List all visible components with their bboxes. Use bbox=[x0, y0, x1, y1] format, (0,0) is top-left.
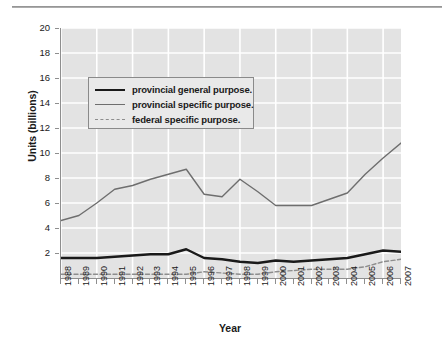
legend-line-swatch-icon bbox=[95, 85, 125, 95]
y-tick-mark bbox=[55, 53, 59, 54]
x-tick-mark bbox=[293, 279, 294, 284]
series-line bbox=[61, 143, 401, 221]
chart-canvas bbox=[61, 28, 401, 278]
x-tick-mark bbox=[364, 279, 365, 284]
x-tick-mark bbox=[185, 279, 186, 284]
legend-item-label: federal specific purpose. bbox=[132, 114, 240, 125]
y-tick-mark bbox=[55, 253, 59, 254]
legend-item-label: provincial general purpose. bbox=[132, 84, 252, 95]
line-chart-figure: Units (billions) Year 2468101214161820 1… bbox=[0, 0, 448, 346]
y-tick-mark bbox=[55, 203, 59, 204]
legend-dashed-swatch-icon bbox=[95, 115, 125, 125]
x-tick-mark bbox=[132, 279, 133, 284]
x-tick-mark bbox=[114, 279, 115, 284]
x-tick-mark bbox=[257, 279, 258, 284]
gridlines bbox=[61, 28, 401, 278]
x-tick-mark bbox=[78, 279, 79, 284]
x-tick-mark bbox=[346, 279, 347, 284]
y-tick-mark bbox=[55, 28, 59, 29]
chart-legend: provincial general purpose. provincial s… bbox=[88, 77, 254, 129]
legend-item-label: provincial specific purpose. bbox=[132, 99, 253, 110]
data-series-layer bbox=[61, 143, 401, 274]
y-tick-label: 2 bbox=[16, 248, 50, 258]
y-tick-mark bbox=[55, 128, 59, 129]
y-tick-label: 6 bbox=[16, 198, 50, 208]
x-axis-title: Year bbox=[60, 322, 400, 334]
x-tick-mark bbox=[239, 279, 240, 284]
y-tick-mark bbox=[55, 103, 59, 104]
x-tick-mark bbox=[149, 279, 150, 284]
y-tick-mark bbox=[55, 78, 59, 79]
x-tick-mark bbox=[167, 279, 168, 284]
y-tick-mark bbox=[55, 178, 59, 179]
x-tick-mark bbox=[96, 279, 97, 284]
legend-item-provincial-specific: provincial specific purpose. bbox=[89, 97, 253, 112]
series-line bbox=[61, 249, 401, 263]
x-tick-mark bbox=[275, 279, 276, 284]
x-tick-mark bbox=[382, 279, 383, 284]
x-tick-mark bbox=[203, 279, 204, 284]
plot-area bbox=[60, 28, 401, 279]
x-tick-mark bbox=[400, 279, 401, 284]
y-axis-title: Units (billions) bbox=[26, 56, 38, 196]
x-tick-mark bbox=[221, 279, 222, 284]
x-tick-label: 2007 bbox=[404, 266, 413, 286]
x-tick-mark bbox=[60, 279, 61, 284]
x-tick-mark bbox=[311, 279, 312, 284]
y-tick-mark bbox=[55, 153, 59, 154]
legend-item-federal-specific: federal specific purpose. bbox=[89, 112, 253, 127]
y-tick-mark bbox=[55, 228, 59, 229]
x-tick-mark bbox=[328, 279, 329, 284]
legend-item-provincial-general: provincial general purpose. bbox=[89, 82, 253, 97]
legend-line-swatch-icon bbox=[95, 100, 125, 110]
y-tick-label: 20 bbox=[16, 23, 50, 33]
y-tick-label: 4 bbox=[16, 223, 50, 233]
